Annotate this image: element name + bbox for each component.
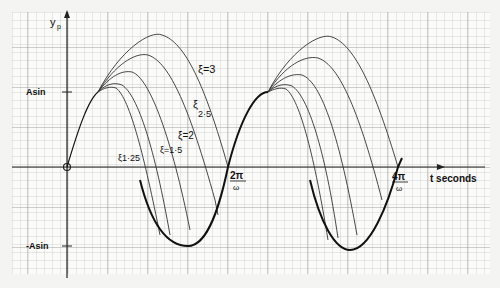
annotation-xi-3: ξ=3 xyxy=(198,63,215,75)
chart-canvas: y p Asin -Asin 2π ω 4π ω t seconds ξ=3 ξ… xyxy=(0,0,500,288)
svg-text:2π: 2π xyxy=(230,170,244,181)
annotation-xi-1-5: ξ=1·5 xyxy=(160,145,182,155)
asin-positive-label: Asin xyxy=(26,87,46,97)
svg-text:ω: ω xyxy=(396,184,402,193)
x-axis-label: t seconds xyxy=(430,173,477,184)
asin-negative-label: -Asin xyxy=(26,241,49,251)
svg-text:p: p xyxy=(57,23,61,31)
svg-text:y: y xyxy=(50,16,56,28)
grid xyxy=(12,12,490,274)
annotation-xi-1-25: ξ1·25 xyxy=(118,153,140,163)
svg-text:2·5: 2·5 xyxy=(198,109,211,119)
annotation-xi-2: ξ=2 xyxy=(178,130,194,142)
svg-text:ω: ω xyxy=(233,183,239,192)
svg-text:4π: 4π xyxy=(392,171,406,182)
